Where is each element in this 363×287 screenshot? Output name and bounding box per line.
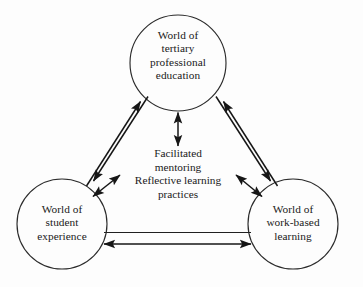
node-circle-work: [248, 179, 338, 269]
connector-student-center: [93, 175, 120, 197]
node-circle-student: [17, 179, 107, 269]
node-circle-tertiary: [130, 15, 226, 111]
connector-work-center: [236, 175, 262, 197]
connector-tertiary-to-work: [216, 97, 271, 182]
connector-work-to-tertiary: [224, 102, 278, 187]
diagram-canvas: World of tertiary professional education…: [0, 0, 363, 287]
connector-tertiary-to-student: [94, 97, 149, 182]
diagram-graphics: [0, 0, 363, 287]
connector-student-to-tertiary: [87, 102, 141, 187]
